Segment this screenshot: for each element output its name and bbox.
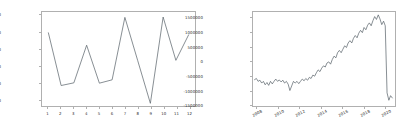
x-tick-label: 1 (46, 111, 49, 116)
y-tick-label: 1500000 (185, 15, 203, 20)
x-tick-label: 2018 (359, 109, 370, 118)
x-tick-mark (99, 107, 100, 109)
x-tick-mark (60, 107, 61, 109)
x-tick-mark (164, 107, 165, 109)
x-tick-label: 2 (59, 111, 62, 116)
x-tick-mark (278, 107, 279, 109)
x-tick-mark (138, 107, 139, 109)
x-tick-mark (321, 107, 322, 109)
x-tick-label: 2010 (273, 109, 284, 118)
chart-panel-left: 1200000125000013000001350000140000014500… (0, 0, 202, 128)
x-tick-mark (342, 107, 343, 109)
line-series-left (42, 12, 195, 106)
x-tick-label: 10 (161, 111, 166, 116)
x-tick-label: 2014 (316, 109, 327, 118)
x-tick-label: 2008 (252, 109, 263, 118)
x-tick-mark (125, 107, 126, 109)
x-tick-label: 6 (111, 111, 114, 116)
x-tick-mark (86, 107, 87, 109)
y-tick-label: -1000000 (183, 88, 203, 93)
x-tick-mark (177, 107, 178, 109)
plot-area-right (252, 11, 396, 107)
x-tick-label: 4 (85, 111, 88, 116)
y-tick-label: 500000 (188, 44, 203, 49)
y-tick-label: -500000 (186, 73, 203, 78)
x-tick-label: 11 (174, 111, 179, 116)
y-tick-label: -1500000 (183, 103, 203, 108)
x-tick-label: 9 (149, 111, 152, 116)
x-tick-mark (151, 107, 152, 109)
x-tick-label: 2012 (295, 109, 306, 118)
y-tick-label: 1000000 (185, 30, 203, 35)
x-tick-mark (256, 107, 257, 109)
x-tick-mark (364, 107, 365, 109)
x-tick-mark (299, 107, 300, 109)
x-tick-mark (47, 107, 48, 109)
x-tick-mark (73, 107, 74, 109)
chart-panel-right: -1500000-1000000-50000005000001000000150… (202, 0, 404, 128)
x-tick-label: 2020 (381, 109, 392, 118)
x-tick-mark (112, 107, 113, 109)
plot-area-left (41, 11, 196, 107)
x-tick-label: 5 (98, 111, 101, 116)
line-series-right (253, 12, 395, 106)
figure: 1200000125000013000001350000140000014500… (0, 0, 404, 128)
x-tick-label: 3 (72, 111, 75, 116)
x-tick-label: 2016 (338, 109, 349, 118)
x-tick-label: 8 (137, 111, 140, 116)
x-tick-label: 12 (187, 111, 192, 116)
x-tick-mark (385, 107, 386, 109)
x-tick-label: 7 (124, 111, 127, 116)
